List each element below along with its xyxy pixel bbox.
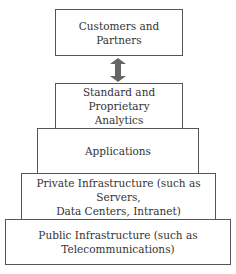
layer-label-line: Private Infrastructure (such as Servers, <box>36 177 200 203</box>
double-arrow-icon <box>109 58 127 82</box>
layer-label-line: Partners <box>96 34 141 46</box>
layer-label-line: Data Centers, Intranet) <box>56 205 181 217</box>
layer-label-line: Applications <box>85 145 151 157</box>
layer-label-line: Customers and <box>79 20 159 32</box>
layer-public-infrastructure: Public Infrastructure (such asTelecommun… <box>5 219 231 265</box>
layer-analytics: Standard and ProprietaryAnalytics <box>55 83 183 129</box>
layer-label-line: Public Infrastructure (such as <box>38 229 197 241</box>
layer-label-line: Telecommunications) <box>61 243 174 255</box>
layer-label-line: Standard and Proprietary <box>83 86 155 112</box>
layer-customers-partners: Customers andPartners <box>55 9 183 56</box>
layer-applications: Applications <box>37 128 199 174</box>
layer-label-line: Analytics <box>95 114 144 126</box>
layer-private-infrastructure: Private Infrastructure (such as Servers,… <box>21 173 216 220</box>
